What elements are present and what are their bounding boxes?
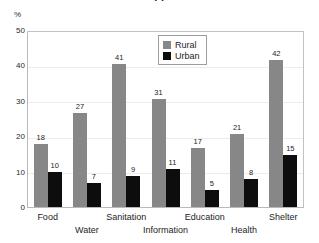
bar-education-urban bbox=[205, 190, 219, 208]
bar-value-education-urban: 5 bbox=[201, 180, 223, 188]
bar-water-rural bbox=[73, 113, 87, 208]
bar-value-education-rural: 17 bbox=[187, 138, 209, 146]
bar-value-information-rural: 31 bbox=[148, 89, 170, 97]
bar-education-rural bbox=[191, 148, 205, 208]
bar-water-urban bbox=[87, 183, 101, 208]
x-label-food: Food bbox=[3, 212, 93, 222]
y-axis-ticks: 50 40 30 20 10 0 bbox=[0, 31, 25, 208]
chart-title-cropped: · · bbox=[0, 0, 319, 7]
x-label-education: Education bbox=[160, 212, 250, 222]
x-label-sanitation: Sanitation bbox=[81, 212, 171, 222]
bar-value-shelter-rural: 42 bbox=[265, 50, 287, 58]
bar-value-sanitation-urban: 9 bbox=[122, 166, 144, 174]
y-axis-unit-label: % bbox=[14, 10, 21, 19]
legend-item-urban: Urban bbox=[163, 50, 200, 61]
bar-chart: · · % 50 40 30 20 10 0 18102774193111175… bbox=[0, 0, 319, 243]
legend-label-urban: Urban bbox=[175, 51, 200, 61]
bar-value-food-rural: 18 bbox=[30, 134, 52, 142]
bar-information-rural bbox=[152, 99, 166, 208]
bar-value-water-urban: 7 bbox=[83, 173, 105, 181]
bar-value-sanitation-rural: 41 bbox=[108, 54, 130, 62]
bar-value-water-rural: 27 bbox=[69, 103, 91, 111]
x-label-shelter: Shelter bbox=[238, 212, 319, 222]
chart-legend: Rural Urban bbox=[158, 35, 207, 65]
bar-food-urban bbox=[48, 172, 62, 207]
bar-value-shelter-urban: 15 bbox=[279, 145, 301, 153]
bar-shelter-rural bbox=[269, 60, 283, 207]
y-tick-30: 30 bbox=[3, 98, 25, 106]
bar-value-food-urban: 10 bbox=[44, 162, 66, 170]
y-tick-10: 10 bbox=[3, 169, 25, 177]
y-tick-0: 0 bbox=[3, 204, 25, 212]
y-tick-20: 20 bbox=[3, 133, 25, 141]
legend-item-rural: Rural bbox=[163, 39, 200, 50]
bar-health-urban bbox=[244, 179, 258, 207]
x-label-water: Water bbox=[42, 225, 132, 235]
legend-swatch-rural-icon bbox=[163, 41, 171, 49]
bar-sanitation-urban bbox=[126, 176, 140, 208]
bar-sanitation-rural bbox=[112, 64, 126, 208]
x-label-information: Information bbox=[121, 225, 211, 235]
bar-food-rural bbox=[34, 144, 48, 207]
legend-swatch-urban-icon bbox=[163, 52, 171, 60]
y-tick-40: 40 bbox=[3, 62, 25, 70]
x-label-health: Health bbox=[199, 225, 289, 235]
bar-value-information-urban: 11 bbox=[162, 159, 184, 167]
bar-information-urban bbox=[166, 169, 180, 208]
bar-value-health-urban: 8 bbox=[240, 169, 262, 177]
bar-shelter-urban bbox=[283, 155, 297, 208]
legend-label-rural: Rural bbox=[175, 40, 197, 50]
y-tick-50: 50 bbox=[3, 27, 25, 35]
bar-value-health-rural: 21 bbox=[226, 124, 248, 132]
